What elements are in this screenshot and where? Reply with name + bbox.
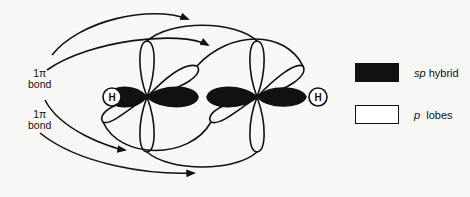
pi-bond-label-line2: bond	[28, 79, 51, 90]
pi-bond-outline-lower	[147, 152, 257, 167]
arrow-lower-1	[45, 100, 125, 150]
hydrogen-label-left: H	[108, 92, 115, 103]
pi-bond-label-line2: bond	[28, 120, 51, 131]
legend-label: sp hybrid	[414, 67, 459, 79]
p-lobe	[250, 97, 264, 152]
acetylene-orbital-diagram: H H	[0, 0, 470, 197]
arrow-upper-2	[47, 38, 208, 70]
pi-bond-outline-diag-lower	[103, 122, 211, 151]
pi-bond-label-lower: 1π bond	[28, 109, 51, 131]
legend-label: p lobes	[414, 109, 453, 121]
legend-swatch-filled	[355, 63, 399, 82]
pi-bond-label-upper: 1π bond	[28, 68, 51, 90]
legend-item-sp-hybrid: sp hybrid	[355, 63, 459, 82]
arrow-upper-1	[52, 14, 188, 55]
hydrogen-label-right: H	[314, 92, 321, 103]
p-lobe	[250, 41, 264, 97]
legend-item-p-lobes: p lobes	[355, 105, 453, 124]
p-lobe	[140, 97, 154, 152]
legend-swatch-empty	[355, 105, 399, 124]
p-lobe	[140, 41, 154, 97]
